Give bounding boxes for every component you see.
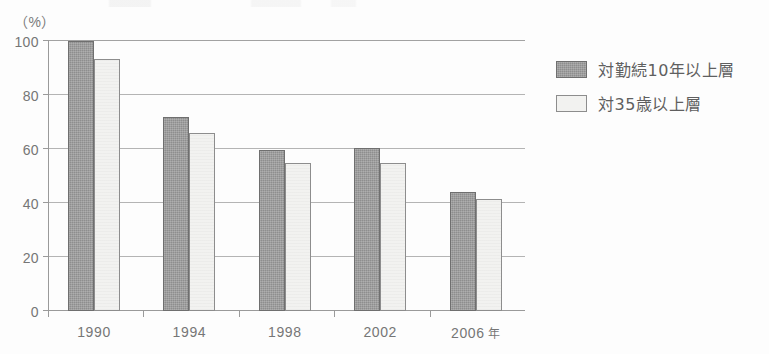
y-tick-label-60: 60 — [23, 142, 39, 158]
x-tick-mark-2002 — [334, 311, 335, 317]
y-tick-mark-20 — [43, 256, 49, 257]
x-tick-mark-1990 — [48, 311, 49, 317]
legend-item-2: 対35歳以上層 — [556, 86, 766, 120]
y-axis-line — [48, 40, 49, 312]
y-tick-mark-40 — [43, 202, 49, 203]
chart-legend: 対勤続10年以上層対35歳以上層 — [556, 52, 766, 120]
bar-2002-series2 — [380, 163, 406, 312]
x-tick-mark-1998 — [239, 311, 240, 317]
x-axis-unit-suffix: 年 — [488, 327, 501, 341]
y-tick-mark-100 — [43, 40, 49, 41]
bar-1998-series1 — [259, 150, 285, 311]
x-axis-label-2006: 2006年 — [451, 324, 500, 341]
bar-1994-series2 — [189, 133, 215, 311]
legend-swatch-1 — [556, 61, 587, 78]
y-axis-unit-label: （%） — [14, 11, 56, 31]
gridline-100 — [48, 40, 525, 41]
bar-2006-series2 — [476, 199, 502, 311]
x-axis-label-1994: 1994 — [173, 324, 207, 340]
x-axis-label-1990: 1990 — [77, 324, 111, 340]
legend-swatch-2 — [556, 95, 587, 112]
bar-1998-series2 — [285, 163, 311, 312]
plot-area: 020406080100 19901994199820022006年 — [48, 41, 525, 311]
y-tick-label-100: 100 — [14, 34, 39, 50]
y-tick-mark-80 — [43, 94, 49, 95]
x-tick-mark-1994 — [143, 311, 144, 317]
bar-2002-series1 — [354, 148, 380, 311]
legend-label-1: 対勤続10年以上層 — [598, 57, 735, 81]
legend-item-1: 対勤続10年以上層 — [556, 52, 766, 86]
y-tick-label-20: 20 — [23, 250, 39, 266]
bar-chart-figure: （%） 020406080100 19901994199820022006年 対… — [0, 0, 769, 354]
bar-1994-series1 — [163, 117, 189, 311]
y-tick-label-0: 0 — [31, 304, 39, 320]
legend-label-2: 対35歳以上層 — [598, 91, 702, 115]
y-tick-label-80: 80 — [23, 88, 39, 104]
y-tick-mark-60 — [43, 148, 49, 149]
bar-2006-series1 — [450, 192, 476, 311]
bar-1990-series2 — [94, 59, 120, 311]
bar-1990-series1 — [68, 41, 94, 311]
x-axis-label-1998: 1998 — [268, 324, 302, 340]
x-axis-label-2002: 2002 — [363, 324, 397, 340]
x-tick-mark-2006 — [430, 311, 431, 317]
y-tick-label-40: 40 — [23, 196, 39, 212]
